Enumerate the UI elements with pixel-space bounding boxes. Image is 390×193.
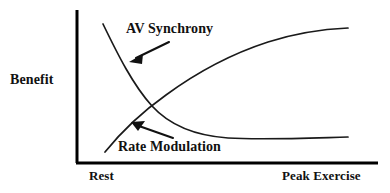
series-label-av-synchrony: AV Synchrony xyxy=(126,21,213,37)
x-axis-tick-label-rest: Rest xyxy=(89,168,114,184)
rate-modulation-arrow-icon xyxy=(131,121,173,138)
benefit-vs-exercise-chart: Benefit AV Synchrony Rate Modulation Res… xyxy=(0,0,390,193)
series-line-rate-modulation xyxy=(105,28,348,152)
av-synchrony-arrow-icon xyxy=(129,42,169,64)
series-label-rate-modulation: Rate Modulation xyxy=(118,139,221,155)
y-axis-title: Benefit xyxy=(10,72,53,88)
x-axis-tick-label-peak-exercise: Peak Exercise xyxy=(282,168,361,184)
